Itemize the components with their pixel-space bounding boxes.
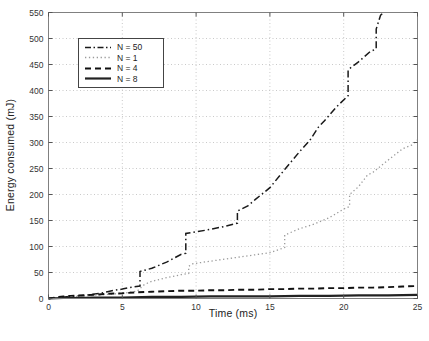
x-axis-label: Time (ms) [209,307,258,319]
y-tick-label: 0 [39,294,44,304]
y-tick-label: 100 [29,242,43,252]
legend-line-sample [85,43,111,52]
y-tick-label: 350 [29,112,43,122]
legend-item: N = 4 [85,63,158,73]
legend-line-sample [85,74,111,83]
y-tick-label: 400 [29,86,43,96]
y-tick-label: 300 [29,138,43,148]
x-tick-label: 0 [46,302,51,312]
legend-label: N = 1 [117,53,138,63]
y-tick-label: 250 [29,164,43,174]
y-tick-label: 50 [34,268,44,278]
x-tick-label: 20 [339,302,349,312]
legend-line-sample [85,53,111,62]
legend-label: N = 8 [117,74,138,84]
y-tick-label: 200 [29,190,43,200]
legend-item: N = 1 [85,53,158,63]
y-tick-label: 450 [29,60,43,70]
legend-label: N = 50 [117,42,142,52]
y-tick-label: 550 [29,8,43,18]
legend-line-sample [85,64,111,73]
matlab-figure: 0510152025050100150200250300350400450500… [0,0,429,341]
x-tick-label: 5 [120,302,125,312]
x-tick-label: 10 [191,302,201,312]
x-tick-label: 15 [265,302,275,312]
plot-area: 0510152025050100150200250300350400450500… [0,0,429,341]
y-axis-label: Energy consumed (mJ) [4,99,16,212]
legend-item: N = 50 [85,42,158,52]
legend: N = 50N = 1N = 4N = 8 [78,38,164,88]
legend-label: N = 4 [117,63,138,73]
legend-item: N = 8 [85,74,158,84]
y-tick-label: 150 [29,216,43,226]
y-tick-label: 500 [29,34,43,44]
x-tick-label: 25 [413,302,423,312]
